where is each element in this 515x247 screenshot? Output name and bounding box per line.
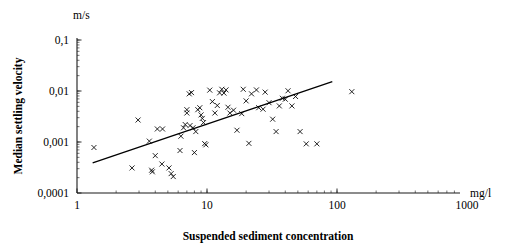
data-point-marker — [149, 168, 154, 173]
data-point-marker — [298, 129, 303, 134]
data-point-marker — [189, 90, 194, 95]
y-tick-label: 0,001 — [43, 136, 69, 149]
data-point-marker — [147, 139, 152, 144]
y-tick-label: 0,0001 — [37, 187, 69, 200]
data-point-marker — [270, 117, 275, 122]
x-axis-unit-label: mg/l — [470, 187, 491, 200]
data-point-marker — [244, 98, 249, 103]
y-tick-label: 0,01 — [49, 85, 69, 98]
y-tick-label: 0,1 — [55, 34, 70, 47]
data-point-marker — [188, 123, 193, 128]
data-point-marker — [130, 165, 135, 170]
data-point-marker — [159, 162, 164, 167]
data-point-marker — [349, 89, 354, 94]
data-points — [91, 87, 354, 179]
data-point-marker — [261, 107, 266, 112]
data-point-marker — [225, 105, 230, 110]
data-point-marker — [178, 134, 183, 139]
data-point-marker — [207, 88, 212, 93]
data-point-marker — [277, 103, 282, 108]
data-point-marker — [192, 150, 197, 155]
x-axis-title: Suspended sediment concentration — [183, 230, 354, 243]
trend-line — [93, 82, 333, 163]
x-tick-label: 10 — [201, 199, 213, 211]
data-point-marker — [210, 99, 215, 104]
regression-line — [93, 82, 333, 163]
data-point-marker — [160, 126, 165, 131]
data-point-marker — [227, 111, 232, 116]
data-point-marker — [231, 108, 236, 113]
y-axis-unit-label: m/s — [73, 9, 90, 21]
axis-lines — [77, 38, 460, 193]
data-point-marker — [153, 153, 158, 158]
data-point-marker — [136, 118, 141, 123]
data-point-marker — [91, 145, 96, 150]
data-point-marker — [203, 142, 208, 147]
data-point-marker — [155, 126, 160, 131]
data-point-marker — [314, 141, 319, 146]
data-point-marker — [171, 174, 176, 179]
data-point-marker — [274, 129, 279, 134]
data-point-marker — [215, 103, 220, 108]
data-point-marker — [150, 169, 155, 174]
data-point-marker — [246, 141, 251, 146]
chart-svg: 11010010000,10,010,0010,0001 m/s mg/l Su… — [0, 0, 515, 247]
x-tick-label: 100 — [328, 199, 346, 211]
data-point-marker — [197, 105, 202, 110]
data-point-marker — [193, 129, 198, 134]
data-point-marker — [234, 128, 239, 133]
x-tick-label: 1000 — [456, 199, 479, 211]
data-point-marker — [289, 103, 294, 108]
data-point-marker — [249, 91, 254, 96]
data-point-marker — [212, 111, 217, 116]
data-point-marker — [254, 87, 259, 92]
data-point-marker — [223, 87, 228, 92]
data-point-marker — [304, 141, 309, 146]
data-point-marker — [201, 120, 206, 125]
data-point-marker — [263, 90, 268, 95]
axis-ticks: 11010010000,10,010,0010,0001 — [37, 34, 478, 211]
scatter-chart: 11010010000,10,010,0010,0001 m/s mg/l Su… — [0, 0, 515, 247]
data-point-marker — [241, 87, 246, 92]
x-tick-label: 1 — [74, 199, 80, 211]
data-point-marker — [184, 111, 189, 116]
data-point-marker — [178, 148, 183, 153]
data-point-marker — [166, 165, 171, 170]
y-axis-title: Median settling velocity — [12, 57, 25, 174]
data-point-marker — [286, 88, 291, 93]
data-point-marker — [169, 171, 174, 176]
